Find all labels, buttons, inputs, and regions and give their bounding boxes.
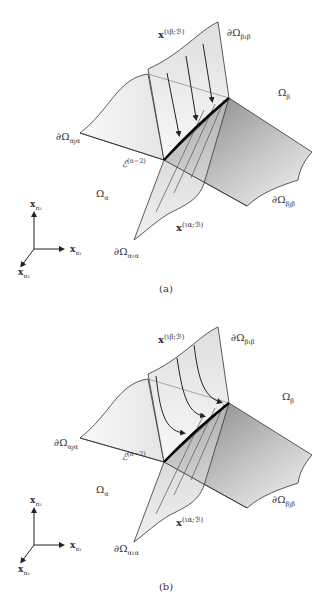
omega-alpha-label: Ωα: [96, 484, 109, 498]
boundary-alpha-bottom-label: ∂Ωαια: [114, 246, 139, 260]
x-beta-label: x(ιβ;ℬ): [158, 333, 185, 345]
axis-n1-label: xn₁: [70, 540, 82, 552]
boundary-beta-top-label: ∂Ωβιβ: [227, 27, 251, 41]
figure-panel-a: x(ιβ;ℬ) ∂Ωβιβ Ωβ ∂Ωαȷα ℰ(n−2) Ωα ∂Ωβȷβ x…: [0, 0, 332, 300]
diagram-b: x(ιβ;ℬ) ∂Ωβιβ Ωβ ∂Ωαȷα ℰ(n−2) Ωα ∂Ωβȷβ x…: [0, 300, 332, 601]
x-beta-label: x(ιβ;ℬ): [158, 28, 185, 40]
caption-b: (b): [159, 581, 173, 592]
diagram-a: x(ιβ;ℬ) ∂Ωβιβ Ωβ ∂Ωαȷα ℰ(n−2) Ωα ∂Ωβȷβ x…: [0, 0, 332, 300]
axis-n1-label: xn₁: [70, 244, 82, 256]
coordinate-axes: [22, 214, 62, 265]
boundary-alpha-bottom-label: ∂Ωαια: [114, 543, 139, 557]
omega-beta-label: Ωβ: [278, 87, 290, 101]
axis-n3-label: xn₃: [18, 267, 30, 279]
caption-a: (a): [159, 283, 173, 294]
coordinate-axes: [22, 510, 62, 561]
boundary-beta-top-label: ∂Ωβιβ: [231, 332, 255, 346]
boundary-alpha-left-label: ∂Ωαȷα: [56, 131, 81, 145]
omega-alpha-label: Ωα: [96, 188, 109, 202]
x-alpha-label: x(ια;ℬ): [176, 516, 204, 528]
axis-n3-label: xn₃: [18, 564, 30, 576]
figure-panel-b: x(ιβ;ℬ) ∂Ωβιβ Ωβ ∂Ωαȷα ℰ(n−2) Ωα ∂Ωβȷβ x…: [0, 300, 332, 600]
edge-label: ℰ(n−2): [122, 157, 146, 169]
boundary-beta-bottom-label: ∂Ωβȷβ: [272, 194, 295, 208]
omega-beta-label: Ωβ: [282, 391, 294, 405]
boundary-alpha-left-label: ∂Ωαȷα: [54, 437, 79, 451]
axis-n2-label: xn₂: [30, 495, 42, 507]
edge-label: ℰ(n−2): [122, 450, 146, 462]
x-alpha-label: x(ια;ℬ): [176, 221, 204, 233]
axis-n2-label: xn₂: [30, 199, 42, 211]
boundary-beta-bottom-label: ∂Ωβȷβ: [272, 494, 295, 508]
